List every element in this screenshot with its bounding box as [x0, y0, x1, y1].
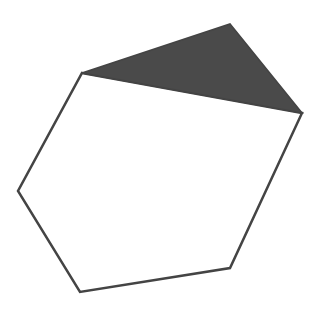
- geometry-diagram: [0, 0, 320, 312]
